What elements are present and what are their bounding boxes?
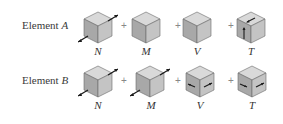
cube-a-t xyxy=(231,8,271,48)
cube-horizontal-arrows-icon xyxy=(180,62,220,102)
symbol-b-v: V xyxy=(190,99,210,111)
cube-b-t xyxy=(232,62,272,102)
cube-a-n xyxy=(78,8,118,48)
cube-axial-arrows-icon xyxy=(78,8,118,48)
cube-axial-arrows-icon xyxy=(130,62,170,102)
cube-a-v xyxy=(177,8,217,48)
cube-shear-arrows-icon xyxy=(231,8,271,48)
element-a-label: Element A xyxy=(22,19,68,31)
element-b-label: Element B xyxy=(22,74,68,86)
cube-axial-arrows-icon xyxy=(78,62,118,102)
cube-b-n xyxy=(78,62,118,102)
cube-icon xyxy=(177,8,217,48)
symbol-b-t: T xyxy=(242,99,262,111)
plus-sign: + xyxy=(121,75,127,86)
cube-b-v xyxy=(180,62,220,102)
symbol-a-t: T xyxy=(241,45,261,57)
element-a-var: A xyxy=(61,19,68,31)
symbol-b-n: N xyxy=(88,99,108,111)
symbol-b-m: M xyxy=(141,99,161,111)
symbol-a-v: V xyxy=(187,45,207,57)
cube-a-m xyxy=(126,8,166,48)
symbol-a-n: N xyxy=(88,45,108,57)
cube-icon xyxy=(126,8,166,48)
cube-horizontal-arrows-icon xyxy=(232,62,272,102)
symbol-a-m: M xyxy=(136,45,156,57)
element-b-var: B xyxy=(61,74,68,86)
cube-b-m xyxy=(130,62,170,102)
